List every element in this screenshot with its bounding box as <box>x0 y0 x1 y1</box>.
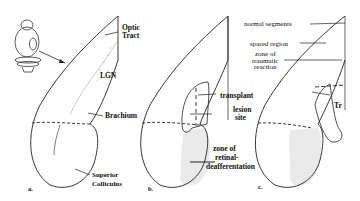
panel-a-outline <box>31 16 118 187</box>
panel-a-fiber <box>54 125 60 155</box>
brachium-label: Brachium <box>105 111 138 120</box>
transplant-pointer <box>198 94 216 95</box>
normal-segments-pointer <box>310 23 345 24</box>
tract-label: Tract <box>122 31 140 40</box>
panel-c-label: c. <box>258 183 263 190</box>
arrowhead <box>59 59 65 63</box>
transplant-c-pointer-2 <box>312 92 330 95</box>
panel-b-label: b. <box>148 185 154 192</box>
panel-a <box>31 16 118 187</box>
zone-of-label-b: zone of <box>213 144 236 153</box>
lesion-ellipse <box>182 82 209 132</box>
colliculus-label: Colliculus <box>92 180 122 188</box>
brain-icon <box>15 20 41 72</box>
tr-label: Tr <box>334 101 342 110</box>
deafferentation-label: deafferentation <box>206 162 256 171</box>
spared-region-label: spared region <box>250 40 288 48</box>
panel-c-shade <box>289 128 321 186</box>
panel-a-dashed-line <box>32 122 90 124</box>
superior-label: Superior <box>92 171 118 179</box>
site-label: site <box>235 113 247 122</box>
panel-c-dashed-line <box>258 123 312 128</box>
panel-b-dashed-line <box>142 122 200 125</box>
retinal-label: retinal- <box>215 153 239 162</box>
diagram-canvas: Optic Tract LGN Brachium Superior Collic… <box>0 0 360 201</box>
transplant-label: transplant <box>220 91 254 100</box>
normal-segments-label: normal segments <box>244 20 292 28</box>
optic-tract-pointer <box>105 32 118 35</box>
lgn-label: LGN <box>100 71 117 80</box>
panel-a-label: a. <box>28 185 33 192</box>
reaction-label: reaction <box>254 63 277 71</box>
superior-colliculus-pointer <box>75 169 90 175</box>
